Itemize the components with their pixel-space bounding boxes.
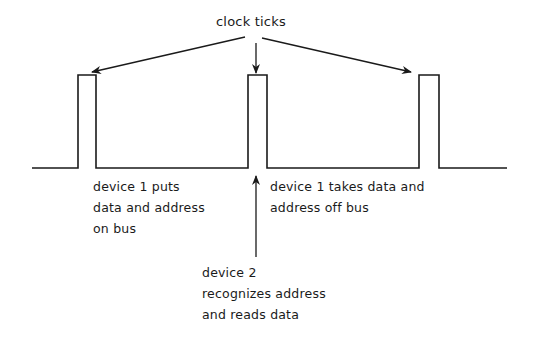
arrow-to-tick-3-icon: [262, 38, 411, 72]
annotation-device1-puts: device 1 puts data and address on bus: [93, 176, 205, 239]
annotation-line: data and address: [93, 197, 205, 218]
annotation-line: device 1 puts: [93, 176, 205, 197]
annotation-line: device 2: [202, 262, 326, 283]
annotation-line: and reads data: [202, 304, 326, 325]
arrow-to-tick-1-icon: [92, 37, 245, 72]
annotation-line: address off bus: [270, 197, 425, 218]
clock-signal-waveform: [32, 75, 507, 168]
annotation-device1-takes-off: device 1 takes data and address off bus: [270, 176, 425, 218]
annotation-line: recognizes address: [202, 283, 326, 304]
clock-ticks-label: clock ticks: [216, 11, 286, 32]
annotation-device2-reads: device 2 recognizes address and reads da…: [202, 262, 326, 325]
annotation-line: device 1 takes data and: [270, 176, 425, 197]
timing-diagram: clock ticks device 1 puts data and addre…: [0, 0, 533, 343]
annotation-line: on bus: [93, 218, 205, 239]
